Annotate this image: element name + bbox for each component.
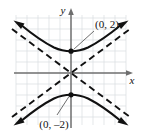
x-axis-label: x <box>129 74 135 86</box>
hyperbola-figure: y x (0, 2) (0, –2) <box>0 0 142 136</box>
vertex-lower-label: (0, –2) <box>39 118 69 131</box>
graph-canvas: y x (0, 2) (0, –2) <box>0 0 142 136</box>
y-axis-label: y <box>60 4 66 16</box>
y-axis-arrowhead <box>68 8 74 15</box>
vertex-upper-point <box>68 49 73 54</box>
vertex-upper-label: (0, 2) <box>95 18 119 31</box>
